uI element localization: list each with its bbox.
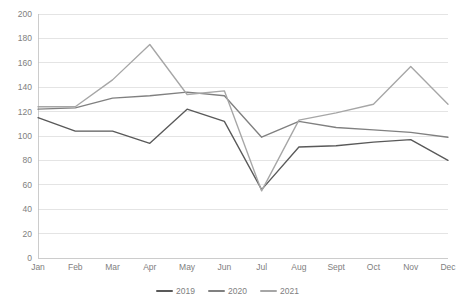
legend-swatch-icon: [260, 290, 277, 292]
legend-label: 2019: [176, 286, 195, 296]
x-tick-label-jan: Jan: [31, 262, 45, 272]
legend-swatch-icon: [156, 290, 173, 292]
y-tick-label: 140: [0, 83, 32, 92]
y-tick-label: 20: [0, 229, 32, 238]
y-tick-label: 80: [0, 156, 32, 165]
y-tick-label: 160: [0, 58, 32, 67]
plot-area: [38, 14, 448, 258]
y-tick-label: 0: [0, 254, 32, 263]
x-tick-label-nov: Nov: [403, 262, 418, 272]
legend-swatch-icon: [208, 290, 225, 292]
y-tick-label: 100: [0, 132, 32, 141]
x-tick-label-may: May: [179, 262, 195, 272]
x-tick-label-sept: Sept: [327, 262, 345, 272]
legend-label: 2021: [280, 286, 299, 296]
y-tick-label: 120: [0, 107, 32, 116]
series-line-2019: [38, 109, 448, 190]
y-tick-label: 40: [0, 205, 32, 214]
x-tick-label-oct: Oct: [367, 262, 380, 272]
x-tick-label-dec: Dec: [440, 262, 455, 272]
x-tick-label-jul: Jul: [256, 262, 267, 272]
y-tick-label: 200: [0, 10, 32, 19]
x-tick-label-apr: Apr: [143, 262, 156, 272]
legend-item-2019[interactable]: 2019: [156, 286, 195, 296]
legend-item-2021[interactable]: 2021: [260, 286, 299, 296]
series-line-2021: [38, 45, 448, 191]
y-tick-label: 60: [0, 180, 32, 189]
x-tick-label-feb: Feb: [68, 262, 83, 272]
legend-label: 2020: [228, 286, 247, 296]
y-axis: 020406080100120140160180200: [0, 14, 32, 258]
x-tick-label-aug: Aug: [291, 262, 306, 272]
series-layer: [38, 14, 448, 258]
x-axis: JanFebMarAprMayJunJulAugSeptOctNovDec: [38, 262, 448, 278]
x-tick-label-mar: Mar: [105, 262, 120, 272]
chart-legend: 201920202021: [0, 283, 455, 299]
legend-item-2020[interactable]: 2020: [208, 286, 247, 296]
x-tick-label-jun: Jun: [218, 262, 232, 272]
y-tick-label: 180: [0, 34, 32, 43]
